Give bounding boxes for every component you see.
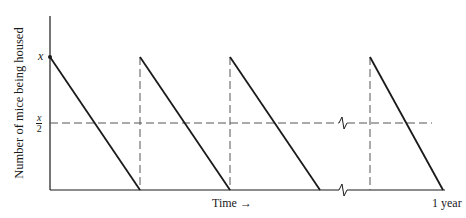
start-point-marker [48,55,52,59]
chart-plot-area [0,0,466,218]
inventory-sawtooth-chart: Number of mice being housed x x 2 Time →… [0,0,466,218]
average-dashed-line [50,117,432,129]
x-axis-label: Time → [212,196,252,211]
x-end-label: 1 year [432,196,462,211]
axis-break-icon [339,184,347,196]
dashed-break-icon [339,117,347,129]
y-tick-half-denominator: 2 [37,123,42,134]
y-tick-x: x [38,49,43,64]
y-tick-half: x 2 [36,113,42,134]
y-axis-label-text: Number of mice being housed [12,27,27,178]
y-axis-label: Number of mice being housed [4,16,34,190]
x-axis [50,184,445,196]
